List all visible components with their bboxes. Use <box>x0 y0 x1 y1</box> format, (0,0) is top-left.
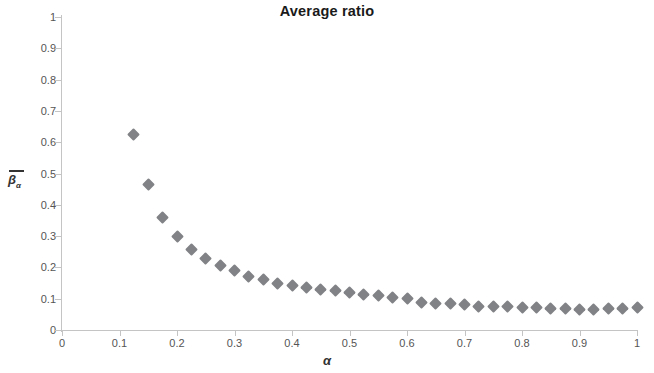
x-tick-label: 0.4 <box>272 337 312 349</box>
x-tick-mark <box>62 331 63 336</box>
x-tick-label: 0.9 <box>560 337 600 349</box>
x-tick-mark <box>235 331 236 336</box>
y-tick-mark <box>55 299 61 300</box>
x-tick-mark <box>522 331 523 336</box>
x-tick-label: 1 <box>617 337 654 349</box>
y-tick-label: 0.8 <box>24 74 56 86</box>
y-tick-label: 0 <box>24 324 56 336</box>
x-tick-label: 0.6 <box>387 337 427 349</box>
y-tick-mark <box>55 48 61 49</box>
y-tick-label: 1 <box>24 11 56 23</box>
y-tick-mark <box>55 142 61 143</box>
y-tick-mark <box>55 17 61 18</box>
x-tick-label: 0.2 <box>157 337 197 349</box>
x-tick-mark <box>350 331 351 336</box>
y-tick-mark <box>55 205 61 206</box>
x-tick-label: 0.8 <box>502 337 542 349</box>
x-tick-mark <box>407 331 408 336</box>
y-tick-mark <box>55 267 61 268</box>
x-tick-label: 0 <box>42 337 82 349</box>
x-tick-mark <box>120 331 121 336</box>
y-tick-label: 0.5 <box>24 168 56 180</box>
x-tick-label: 0.1 <box>100 337 140 349</box>
x-tick-mark <box>177 331 178 336</box>
plot-area <box>62 17 637 330</box>
y-tick-label: 0.3 <box>24 230 56 242</box>
y-tick-mark <box>55 236 61 237</box>
y-tick-label: 0.7 <box>24 105 56 117</box>
y-tick-label: 0.1 <box>24 293 56 305</box>
y-tick-label: 0.6 <box>24 136 56 148</box>
x-tick-label: 0.7 <box>445 337 485 349</box>
y-tick-mark <box>55 80 61 81</box>
y-tick-mark <box>55 111 61 112</box>
y-tick-label: 0.2 <box>24 261 56 273</box>
chart-container: Average ratio βα α 00.10.20.30.40.50.60.… <box>0 0 654 373</box>
x-tick-label: 0.3 <box>215 337 255 349</box>
y-tick-mark <box>55 174 61 175</box>
x-tick-label: 0.5 <box>330 337 370 349</box>
y-tick-label: 0.9 <box>24 42 56 54</box>
y-tick-mark <box>55 330 61 331</box>
y-tick-label-group: 00.10.20.30.40.50.60.70.80.91 <box>14 0 56 373</box>
x-tick-mark <box>580 331 581 336</box>
x-tick-mark <box>637 331 638 336</box>
y-tick-label: 0.4 <box>24 199 56 211</box>
x-tick-mark <box>465 331 466 336</box>
x-tick-mark <box>292 331 293 336</box>
x-axis-title: α <box>0 353 654 368</box>
